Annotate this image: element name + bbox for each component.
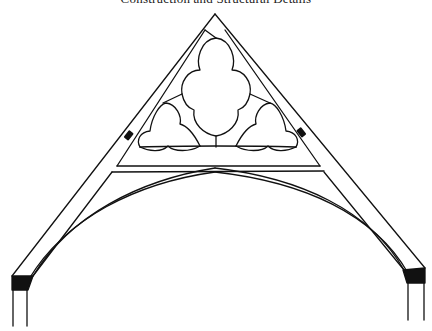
right-peg bbox=[296, 127, 306, 138]
left-arch-brace bbox=[29, 168, 215, 279]
right-arch-brace bbox=[215, 168, 408, 273]
right-post bbox=[408, 283, 424, 320]
tracery-connector-right bbox=[250, 94, 270, 103]
right-trefoil bbox=[236, 103, 298, 147]
left-trefoil bbox=[138, 103, 200, 147]
truss-diagram bbox=[0, 0, 432, 331]
central-quatrefoil bbox=[182, 38, 251, 136]
tracery-base bbox=[140, 146, 296, 147]
left-post bbox=[13, 290, 27, 326]
tracery-connector-left bbox=[163, 94, 182, 103]
left-rafter bbox=[12, 14, 215, 276]
right-wall-plate-block bbox=[403, 268, 425, 283]
right-rafter bbox=[215, 14, 425, 270]
left-wall-plate-block bbox=[12, 276, 33, 290]
apex bbox=[205, 30, 216, 38]
left-peg bbox=[124, 130, 134, 141]
